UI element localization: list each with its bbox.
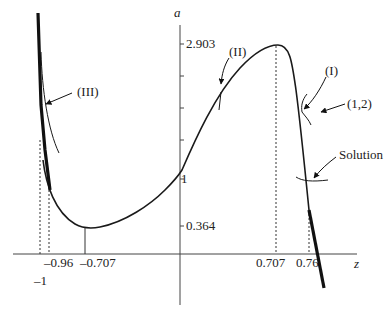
label-1-2: (1,2) — [347, 96, 372, 111]
label-III: (III) — [77, 84, 99, 99]
arrow-12 — [321, 104, 345, 112]
arrow-III — [46, 93, 72, 104]
guide-lines — [40, 46, 309, 254]
main-curve — [43, 45, 309, 228]
y-tick-label-0364: 0.364 — [186, 218, 216, 233]
label-I: (I) — [325, 63, 338, 78]
y-tick-label-2903: 2.903 — [186, 36, 215, 51]
solution-arc — [296, 177, 328, 181]
x-axis-label: z — [353, 256, 359, 271]
arrow-solution — [314, 157, 336, 178]
x-tick-label-neg0707: –0.707 — [79, 255, 116, 270]
x-tick-label-0707: 0.707 — [256, 255, 286, 270]
x-tick-label-neg096: –0.96 — [43, 255, 74, 270]
arrow-I — [304, 77, 326, 109]
solution-line — [309, 210, 324, 288]
arrow-II — [221, 58, 229, 84]
y-axis-label: a — [174, 5, 181, 20]
y-tick-label-1: 1 — [181, 171, 188, 186]
y-ticks — [180, 44, 184, 226]
x-tick-label-076: 0.76 — [296, 255, 319, 270]
function-plot: a z 2.903 1 0.364 –1 –0.96 –0.707 0.707 … — [0, 0, 389, 317]
label-solution: Solution — [339, 147, 384, 162]
label-II: (II) — [229, 44, 246, 59]
tangent-I-lower — [302, 112, 311, 125]
x-tick-label-neg1: –1 — [33, 273, 47, 288]
